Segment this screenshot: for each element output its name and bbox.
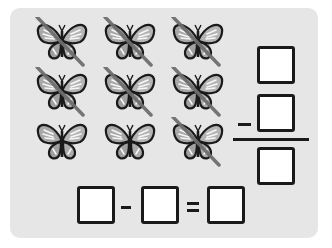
vertical-result-answer-box[interactable] xyxy=(257,147,295,185)
horizontal-operand1-box[interactable] xyxy=(77,186,115,224)
vertical-middle-answer-box[interactable] xyxy=(257,94,295,132)
butterfly-crossed-icon xyxy=(103,17,157,67)
horizontal-operand2-box[interactable] xyxy=(141,186,179,224)
butterfly-crossed-icon xyxy=(171,117,225,167)
butterfly-crossed-icon xyxy=(171,67,225,117)
equals-sign-top xyxy=(187,202,199,205)
horizontal-result-box[interactable] xyxy=(207,186,245,224)
butterfly-icon xyxy=(35,117,89,167)
horizontal-minus-sign xyxy=(121,206,131,209)
vertical-top-answer-box[interactable] xyxy=(257,46,295,84)
butterfly-crossed-icon xyxy=(103,67,157,117)
vertical-minus-sign xyxy=(238,123,251,126)
butterfly-crossed-icon xyxy=(35,67,89,117)
vertical-result-line xyxy=(233,138,309,141)
butterfly-crossed-icon xyxy=(171,17,225,67)
butterfly-icon xyxy=(103,117,157,167)
equals-sign-bottom xyxy=(187,209,199,212)
butterfly-crossed-icon xyxy=(35,17,89,67)
